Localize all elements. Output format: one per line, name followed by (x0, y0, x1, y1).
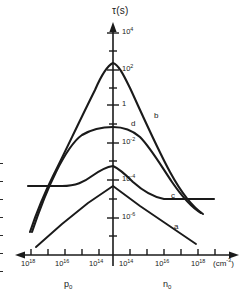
curve-label-b: b (154, 112, 158, 120)
x-tick-label-left-1e14: 1014 (89, 260, 103, 268)
tau-vs-carrier-concentration-plot (0, 0, 249, 299)
y-axis (109, 22, 116, 266)
page-edge-artifact (0, 199, 3, 200)
page-edge-artifact (0, 235, 3, 236)
y-tick-label-1e2: 102 (122, 65, 133, 73)
y-tick-label-1e-4: 10-4 (122, 175, 135, 183)
x-tick-label-left-1e16: 1016 (55, 260, 69, 268)
x-tick-label-right-1e18: 1018 (191, 260, 205, 268)
x-tick-label-right-1e16: 1016 (155, 260, 169, 268)
y-tick-label-1e-2: 10-2 (122, 138, 135, 146)
curve-label-a: a (174, 223, 178, 231)
x-tick-label-right-1e14: 1014 (119, 260, 133, 268)
page-edge-artifact (0, 163, 3, 164)
curve-label-c: c (171, 192, 175, 200)
x-tick-label-left-1e18: 1018 (21, 260, 35, 268)
curve-label-d: d (131, 120, 135, 128)
page-edge-artifact (0, 217, 3, 218)
x-axis-right-variable: n0 (163, 280, 171, 289)
x-axis-ticks (31, 249, 215, 255)
y-axis-title: τ(s) (112, 6, 128, 16)
y-tick-label-1: 1 (122, 100, 126, 108)
y-tick-label-1e-6: 10-6 (122, 213, 135, 221)
page-edge-artifact (0, 271, 3, 272)
x-axis-left-variable: p0 (64, 280, 72, 289)
page-edge-artifact (0, 181, 3, 182)
y-tick-label-1e4: 104 (122, 28, 133, 36)
page-edge-artifact (0, 253, 3, 254)
x-axis-unit: (cm-3) (213, 260, 234, 268)
